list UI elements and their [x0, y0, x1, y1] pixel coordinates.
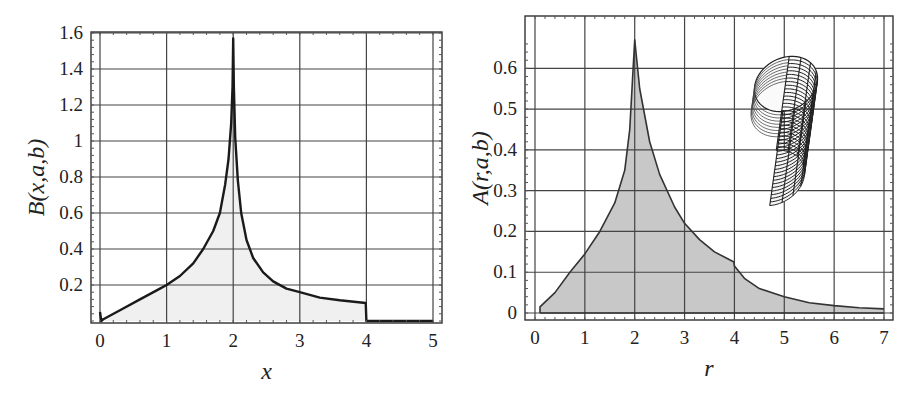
y-tick-label: 1.6	[59, 22, 83, 43]
x-tick-label: 2	[630, 327, 640, 348]
x-tick-label: 5	[780, 327, 790, 348]
y-tick-label: 1	[74, 130, 84, 151]
y-axis-label: A(r,a,b)	[467, 131, 493, 206]
x-tick-label: 6	[829, 327, 839, 348]
x-tick-label: 7	[879, 327, 889, 348]
y-tick-label: 0.5	[493, 98, 517, 119]
y-tick-label: 1.2	[59, 94, 83, 115]
x-tick-label: 3	[680, 327, 690, 348]
y-tick-label: 1.4	[59, 58, 83, 79]
y-tick-label: 0.2	[493, 220, 517, 241]
x-axis-label: x	[260, 358, 272, 384]
x-tick-label: 1	[580, 327, 590, 348]
right-chart-a-r: 0123456700.10.20.30.40.50.6rA(r,a,b)	[467, 16, 893, 381]
x-axis-label: r	[704, 355, 714, 381]
figure-canvas: 0123450.20.40.60.811.21.41.6xB(x,a,b) 01…	[0, 0, 918, 396]
x-tick-label: 1	[162, 330, 172, 351]
x-tick-label: 4	[730, 327, 740, 348]
y-tick-label: 0.1	[493, 261, 517, 282]
y-tick-label: 0.2	[59, 274, 83, 295]
x-tick-label: 2	[228, 330, 238, 351]
y-tick-label: 0.6	[493, 57, 517, 78]
y-tick-label: 0.6	[59, 202, 83, 223]
y-tick-label: 0.8	[59, 166, 83, 187]
x-tick-label: 5	[428, 330, 438, 351]
y-tick-label: 0.4	[493, 139, 517, 160]
x-tick-label: 0	[95, 330, 105, 351]
x-tick-label: 4	[362, 330, 372, 351]
y-tick-label: 0.3	[493, 180, 517, 201]
y-tick-label: 0	[508, 302, 518, 323]
y-axis-label: B(x,a,b)	[23, 139, 49, 216]
x-tick-label: 3	[295, 330, 305, 351]
x-tick-label: 0	[530, 327, 540, 348]
left-chart-b-x: 0123450.20.40.60.811.21.41.6xB(x,a,b)	[23, 22, 442, 384]
y-tick-label: 0.4	[59, 238, 83, 259]
